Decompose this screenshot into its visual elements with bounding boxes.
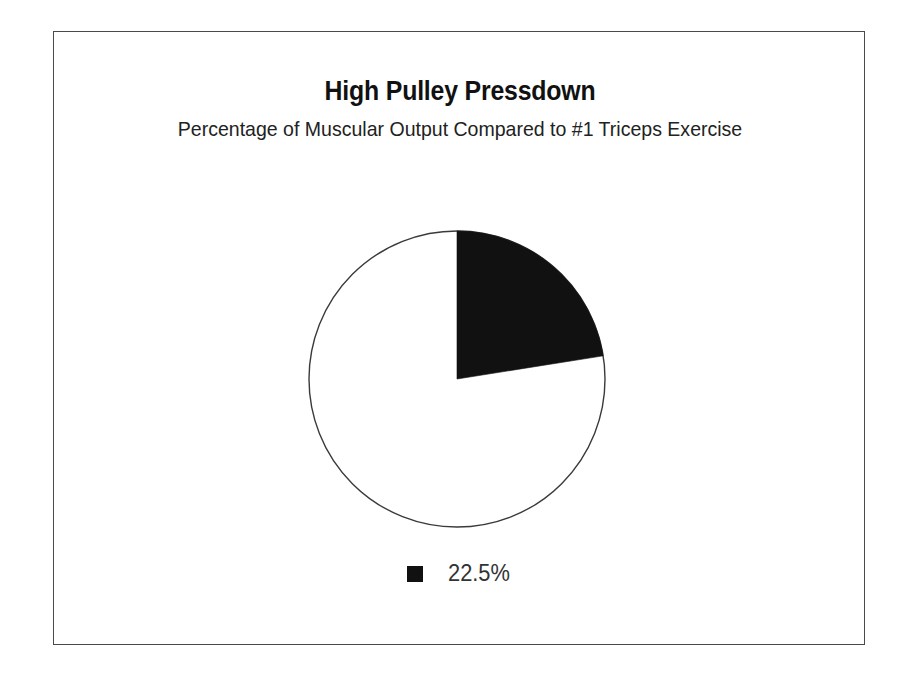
legend-item-label: 22.5% — [448, 560, 510, 587]
chart-title: High Pulley Pressdown — [86, 76, 833, 107]
pie-chart-svg — [307, 229, 607, 529]
pie-chart — [307, 229, 607, 529]
figure-root: High Pulley Pressdown Percentage of Musc… — [0, 0, 916, 674]
pie-slice-value — [457, 231, 603, 379]
chart-subtitle: Percentage of Muscular Output Compared t… — [82, 117, 837, 141]
legend-item: 22.5% — [407, 560, 513, 587]
legend-swatch-icon — [407, 566, 423, 582]
figure-frame: High Pulley Pressdown Percentage of Musc… — [53, 31, 865, 645]
chart-legend: 22.5% — [54, 560, 866, 587]
